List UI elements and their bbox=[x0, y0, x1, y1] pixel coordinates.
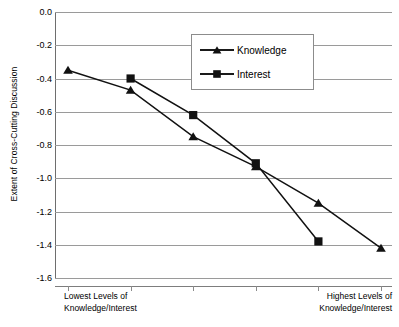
triangle-icon bbox=[200, 43, 234, 57]
y-axis-title-wrap: Extent of Cross-Cutting Discussion bbox=[0, 0, 20, 290]
x-tick bbox=[193, 286, 194, 291]
data-point-triangle bbox=[314, 199, 324, 207]
data-point-square bbox=[314, 237, 322, 245]
x-tick bbox=[256, 286, 257, 291]
legend: Knowledge Interest bbox=[191, 34, 314, 90]
y-axis-title: Extent of Cross-Cutting Discussion bbox=[9, 14, 19, 254]
legend-item-knowledge: Knowledge bbox=[200, 42, 286, 58]
y-tick-label: -1.0 bbox=[22, 174, 52, 183]
y-axis-tick-labels: 0.0-0.2-0.4-0.6-0.8-1.0-1.2-1.4-1.6 bbox=[20, 0, 52, 290]
legend-label-interest: Interest bbox=[234, 69, 270, 80]
line-chart: Extent of Cross-Cutting Discussion 0.0-0… bbox=[0, 0, 399, 327]
y-tick-label: -0.6 bbox=[22, 107, 52, 116]
y-tick-label: 0.0 bbox=[22, 8, 52, 17]
y-tick-label: -1.4 bbox=[22, 240, 52, 249]
series-line-interest bbox=[131, 79, 319, 242]
x-axis-left-end-label-line1: Lowest Levels of bbox=[64, 291, 137, 303]
y-tick-label: -1.2 bbox=[22, 207, 52, 216]
y-tick-label: -0.4 bbox=[22, 74, 52, 83]
data-point-triangle bbox=[63, 66, 73, 74]
data-point-square bbox=[189, 111, 197, 119]
data-point-square bbox=[127, 74, 135, 82]
series-line-knowledge bbox=[68, 70, 381, 248]
y-tick-label: -0.8 bbox=[22, 141, 52, 150]
square-icon bbox=[200, 67, 234, 81]
y-tick-label: -0.2 bbox=[22, 41, 52, 50]
gridline bbox=[55, 278, 392, 279]
x-axis-left-end-label-line2: Knowledge/Interest bbox=[64, 303, 137, 315]
x-axis-right-end-label-line1: Highest Levels of bbox=[319, 291, 392, 303]
x-axis-tick-line bbox=[55, 286, 392, 287]
data-point-square bbox=[252, 159, 260, 167]
legend-item-interest: Interest bbox=[200, 66, 270, 82]
x-axis-left-end-label: Lowest Levels of Knowledge/Interest bbox=[64, 291, 137, 314]
x-axis-right-end-label-line2: Knowledge/Interest bbox=[319, 303, 392, 315]
legend-label-knowledge: Knowledge bbox=[234, 45, 286, 56]
x-axis-right-end-label: Highest Levels of Knowledge/Interest bbox=[319, 291, 392, 314]
y-tick-label: -1.6 bbox=[22, 274, 52, 283]
